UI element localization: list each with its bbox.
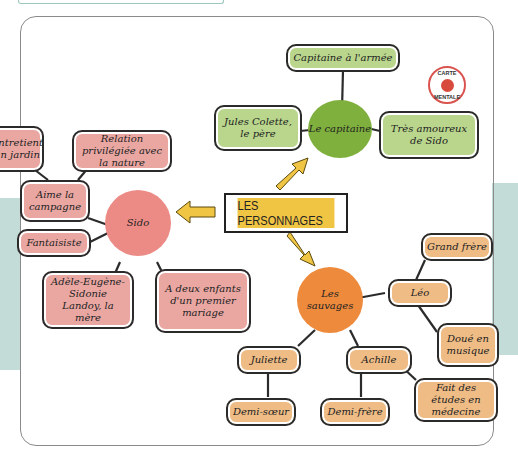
node-label: Entretient un jardin (0, 137, 43, 161)
central-topic-label: LES PERSONNAGES (238, 198, 335, 228)
node-label: Demi-frère (327, 406, 382, 418)
central-topic[interactable]: LES PERSONNAGES (224, 193, 348, 233)
node-aime-campagne[interactable]: Aime la campagne (20, 180, 90, 222)
node-label: Grand frère (427, 241, 487, 253)
node-capitaine-armee[interactable]: Capitaine à l'armée (286, 44, 400, 72)
node-label: A deux enfants d'un premier mariage (161, 283, 245, 319)
arrow-to-sauvages (287, 232, 315, 266)
node-juliette[interactable]: Juliette (237, 346, 301, 374)
arrow-to-capitaine (276, 158, 308, 190)
node-relation-nature[interactable]: Relation privilégiée avec la nature (72, 130, 172, 172)
node-fantaisiste[interactable]: Fantaisiste (17, 229, 91, 257)
node-demi-frere[interactable]: Demi-frère (320, 398, 390, 426)
node-achille[interactable]: Achille (346, 346, 412, 374)
node-label: Sido (127, 217, 149, 229)
node-etudes-medecine[interactable]: Fait des études en médecine (414, 378, 498, 422)
badge-dot-icon (441, 79, 454, 92)
node-le-capitaine[interactable]: Le capitaine (308, 100, 372, 158)
node-grand-frere[interactable]: Grand frère (421, 233, 493, 261)
node-label: Le capitaine (309, 123, 371, 135)
node-label: Demi-sœur (233, 406, 289, 418)
node-label: Léo (411, 287, 430, 299)
node-label: Fantaisiste (26, 237, 81, 249)
node-deux-enfants[interactable]: A deux enfants d'un premier mariage (155, 269, 251, 333)
node-demi-soeur[interactable]: Demi-sœur (226, 398, 296, 426)
badge-text-bottom: MENTALE (430, 94, 464, 100)
node-label: Doué en musique (443, 333, 493, 357)
node-sido[interactable]: Sido (105, 190, 171, 256)
node-label: Juliette (251, 354, 288, 366)
node-label: Les sauvages (297, 288, 363, 312)
node-entretient-jardin[interactable]: Entretient un jardin (0, 126, 44, 172)
node-label: Capitaine à l'armée (293, 52, 392, 64)
badge-text-top: CARTE (430, 70, 464, 76)
node-label: Adèle-Eugène-Sidonie Landoy, la mère (48, 276, 128, 324)
carte-mentale-badge: CARTE MENTALE (428, 66, 466, 104)
node-label: Aime la campagne (26, 189, 84, 213)
node-label: Jules Colette, le père (220, 116, 296, 140)
node-label: Très amoureux de Sido (385, 123, 473, 147)
node-doue-musique[interactable]: Doué en musique (437, 323, 499, 367)
node-label: Fait des études en médecine (420, 382, 492, 418)
node-adele-eugene[interactable]: Adèle-Eugène-Sidonie Landoy, la mère (42, 271, 134, 329)
node-label: Relation privilégiée avec la nature (78, 133, 166, 169)
node-jules-colette[interactable]: Jules Colette, le père (214, 105, 302, 151)
arrow-to-sido (176, 201, 215, 223)
node-leo[interactable]: Léo (388, 279, 452, 307)
node-label: Achille (362, 354, 397, 366)
node-les-sauvages[interactable]: Les sauvages (297, 267, 363, 333)
node-tres-amoureux[interactable]: Très amoureux de Sido (379, 111, 479, 159)
